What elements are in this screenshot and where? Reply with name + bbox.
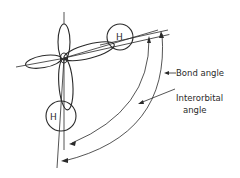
interorbital-label-line2: angle (183, 105, 207, 115)
bond-line-left (57, 58, 64, 168)
interorbital-angle-arc (72, 39, 149, 143)
interorbital-label-line1: Interorbital (176, 93, 223, 103)
bond-angle-label: Bond angle (176, 68, 224, 78)
diagram-canvas: H H Bond angle Interorbital angle (0, 0, 240, 178)
right-orbital-axis (64, 30, 158, 58)
interorbital-leader (140, 89, 175, 103)
bottom-orbital-lobe (57, 58, 75, 111)
bond-arrow-bottom-icon (61, 158, 68, 163)
interorbital-arrow-bottom-icon (69, 141, 76, 146)
orbital-angle-diagram: H H Bond angle Interorbital angle (0, 0, 240, 178)
left-axis-line (16, 59, 60, 67)
bond-leader-arrow-icon (164, 71, 169, 75)
bond-angle-arc (64, 34, 163, 161)
top-orbital-lobe (58, 24, 70, 60)
interorbital-leader-arrow-icon (138, 100, 144, 104)
hydrogen-left-label: H (50, 112, 57, 122)
